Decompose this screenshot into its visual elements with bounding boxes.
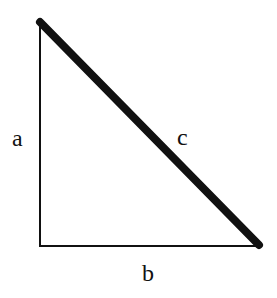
right-triangle-diagram: a c b bbox=[0, 0, 277, 298]
label-a: a bbox=[12, 125, 23, 151]
label-c: c bbox=[177, 124, 188, 150]
label-b: b bbox=[142, 260, 154, 286]
hypotenuse-c-line bbox=[40, 22, 259, 245]
